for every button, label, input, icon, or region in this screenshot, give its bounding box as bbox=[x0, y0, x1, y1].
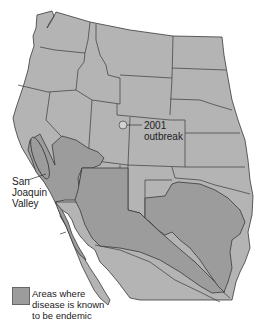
legend-swatch-endemic bbox=[12, 287, 30, 305]
map-canvas bbox=[0, 0, 273, 330]
legend-label: Areas where disease is known to be endem… bbox=[32, 288, 104, 321]
valley-label-line2: Joaquin bbox=[12, 187, 47, 198]
outbreak-year: 2001 bbox=[144, 120, 183, 131]
valley-label: San Joaquin Valley bbox=[12, 176, 47, 209]
valley-label-line1: San bbox=[12, 176, 47, 187]
legend-line2: disease is known bbox=[32, 299, 104, 310]
outbreak-label: 2001 outbreak bbox=[144, 120, 183, 142]
legend-line3: to be endemic bbox=[32, 310, 104, 321]
outbreak-marker-icon bbox=[119, 121, 127, 129]
valley-label-line3: Valley bbox=[12, 198, 47, 209]
legend-line1: Areas where bbox=[32, 288, 104, 299]
outbreak-text: outbreak bbox=[144, 131, 183, 142]
